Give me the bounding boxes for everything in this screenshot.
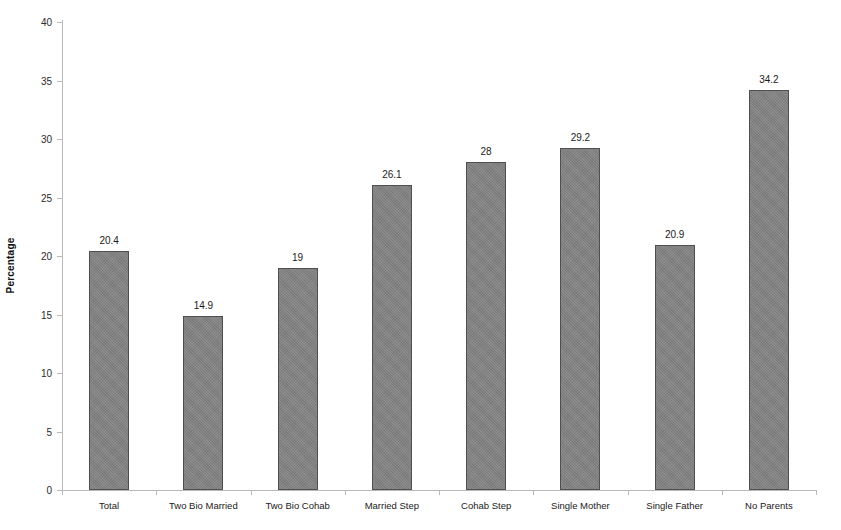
x-axis-tick-mark	[722, 490, 723, 495]
bar[interactable]	[278, 268, 318, 490]
y-axis-tick-mark	[57, 81, 62, 82]
x-axis-tick-mark	[156, 490, 157, 495]
bar-chart: Percentage 0510152025303540 20.414.91926…	[0, 0, 841, 530]
plot-area	[62, 22, 816, 490]
x-axis-tick-mark	[816, 490, 817, 495]
y-axis-tick-label: 25	[6, 192, 52, 203]
y-axis-tick-label: 40	[6, 17, 52, 28]
y-axis-tick-label: 35	[6, 75, 52, 86]
y-axis-tick-mark	[57, 256, 62, 257]
x-axis-tick-mark	[439, 490, 440, 495]
y-axis-tick-label: 0	[6, 485, 52, 496]
y-axis-tick-mark	[57, 432, 62, 433]
bar-value-label: 14.9	[163, 300, 243, 311]
y-axis-tick-mark	[57, 139, 62, 140]
x-axis-tick-mark	[62, 490, 63, 495]
x-axis-tick-mark	[533, 490, 534, 495]
x-axis-tick-mark	[251, 490, 252, 495]
bar-value-label: 29.2	[540, 132, 620, 143]
y-axis-ticks: 0510152025303540	[0, 0, 52, 530]
bar-value-label: 28	[446, 146, 526, 157]
y-axis-tick-label: 5	[6, 426, 52, 437]
bar[interactable]	[560, 148, 600, 490]
y-axis-tick-label: 20	[6, 251, 52, 262]
y-axis-tick-mark	[57, 22, 62, 23]
bar[interactable]	[372, 185, 412, 490]
y-axis-tick-mark	[57, 373, 62, 374]
bar-value-label: 20.9	[635, 229, 715, 240]
bar-value-label: 26.1	[352, 169, 432, 180]
bar-value-label: 19	[258, 252, 338, 263]
bar[interactable]	[466, 162, 506, 490]
bar[interactable]	[749, 90, 789, 490]
bar[interactable]	[655, 245, 695, 490]
y-axis-tick-mark	[57, 198, 62, 199]
y-axis-tick-mark	[57, 490, 62, 491]
y-axis-tick-label: 30	[6, 134, 52, 145]
bar-value-label: 34.2	[729, 74, 809, 85]
x-axis-category-label: No Parents	[714, 500, 824, 511]
y-axis-tick-label: 15	[6, 309, 52, 320]
x-axis-tick-mark	[628, 490, 629, 495]
x-axis-tick-mark	[345, 490, 346, 495]
bar[interactable]	[183, 316, 223, 490]
bar-value-label: 20.4	[69, 235, 149, 246]
y-axis-tick-label: 10	[6, 368, 52, 379]
bar[interactable]	[89, 251, 129, 490]
y-axis-tick-mark	[57, 315, 62, 316]
